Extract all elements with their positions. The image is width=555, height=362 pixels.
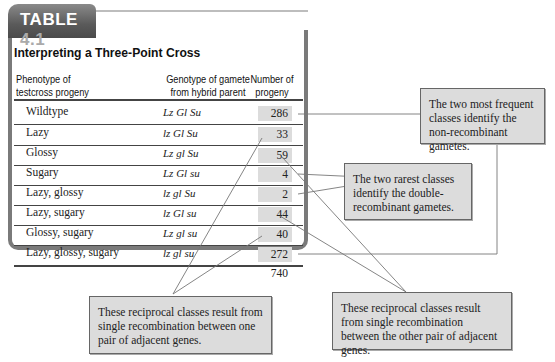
count-cell: 2 [258,187,292,202]
header-number-line1: Number of [244,73,300,86]
genotype-cell: lz Gl Su [163,127,198,139]
genotype-cell: Lz gl su [163,227,197,239]
count-cell: 286 [258,106,292,121]
phenotype-cell: Lazy, glossy [26,186,83,198]
callout-single-recombination-other: These reciprocal classes result from sin… [332,292,512,350]
phenotype-cell: Sugary [26,166,59,178]
genotype-cell: Lz Gl su [163,167,200,179]
header-rule [14,99,303,101]
count-cell: 272 [258,247,292,262]
count-cell: 44 [258,207,292,222]
panel-top-border [96,10,308,12]
phenotype-cell: Glossy [26,146,58,158]
tab-label: TABLE [20,10,78,29]
row-rule [14,124,303,125]
table-tab: TABLE 4.1 [8,4,96,38]
header-phenotype: Phenotype of testcross progeny [16,73,89,99]
count-cell: 4 [258,167,292,182]
phenotype-cell: Glossy, sugary [26,226,94,238]
header-number: Number of progeny [244,73,300,99]
table-title: Interpreting a Three-Point Cross [14,45,200,60]
callout-nonrecombinant: The two most frequent classes identify t… [420,88,545,144]
genotype-cell: Lz Gl Su [163,106,201,118]
callout-double-recombinant: The two rarest classes identify the doub… [344,163,472,220]
phenotype-cell: Wildtype [26,105,68,117]
genotype-cell: lz gl Su [163,187,195,199]
count-cell: 40 [258,227,292,242]
count-cell: 59 [258,148,292,163]
phenotype-cell: Lazy, glossy, sugary [26,246,119,258]
genotype-cell: lz Gl su [163,207,197,219]
header-phenotype-line1: Phenotype of [16,73,89,86]
header-phenotype-line2: testcross progeny [16,86,89,99]
phenotype-cell: Lazy [26,126,49,138]
callout-single-recombination-one: These reciprocal classes result from sin… [89,296,272,354]
header-number-line2: progeny [244,86,300,99]
genotype-cell: Lz gl Su [163,147,198,159]
total-count: 740 [258,267,292,279]
phenotype-cell: Lazy, sugary [26,206,85,218]
genotype-cell: lz gl su [163,247,194,259]
count-cell: 33 [258,127,292,142]
